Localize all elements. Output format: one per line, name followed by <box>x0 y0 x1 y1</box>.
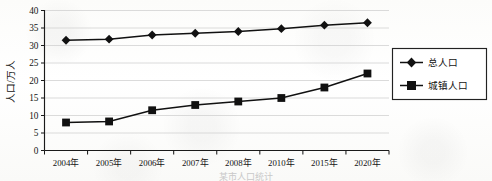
x-tick-label: 2008年 <box>225 157 252 168</box>
x-tick-label: 2005年 <box>96 157 123 168</box>
y-tick-label: 10 <box>29 111 39 121</box>
x-tick-label: 2004年 <box>53 157 80 168</box>
data-point-square <box>191 101 199 109</box>
x-tick-label: 2020年 <box>354 157 381 168</box>
caption-text: 某市人口统计 <box>0 172 492 181</box>
y-tick-label: 35 <box>29 23 39 33</box>
x-tick-label: 2010年 <box>268 157 295 168</box>
data-point-square <box>234 98 242 106</box>
data-point-square <box>364 70 372 78</box>
data-point-diamond <box>191 29 200 38</box>
gridlines <box>45 11 390 134</box>
y-tick-label: 25 <box>29 58 39 68</box>
data-point-square <box>277 94 285 102</box>
chart-canvas: 0510152025303540 2004年2005年2006年2007年200… <box>0 0 492 181</box>
y-tick-label: 0 <box>34 146 39 156</box>
legend-label-total-population: 总人口 <box>428 57 458 68</box>
y-tick-label: 30 <box>29 41 39 51</box>
x-tick-label: 2006年 <box>139 157 166 168</box>
y-axis-tick-labels: 0510152025303540 <box>29 6 39 156</box>
data-point-diamond <box>105 35 114 44</box>
data-point-diamond <box>62 36 71 45</box>
x-axis-tick-labels: 2004年2005年2006年2007年2008年2010年2015年2020年 <box>53 157 381 168</box>
x-tick-label: 2015年 <box>311 157 338 168</box>
data-point-square <box>148 106 156 114</box>
data-series-layer <box>62 18 372 126</box>
legend-label-urban-population: 城镇人口 <box>428 80 468 91</box>
data-point-square <box>105 118 113 126</box>
data-point-square <box>321 84 329 92</box>
data-point-diamond <box>148 31 157 40</box>
y-axis-title: 人口/万人 <box>5 60 16 103</box>
square-marker-icon <box>407 81 416 90</box>
data-point-diamond <box>234 27 243 36</box>
data-point-diamond <box>277 24 286 33</box>
cut-off-caption: 某市人口统计 <box>0 172 492 181</box>
data-point-square <box>62 119 70 127</box>
legend-entry-urban-population[interactable]: 城镇人口 <box>400 80 468 91</box>
x-tick-label: 2007年 <box>182 157 209 168</box>
y-tick-label: 20 <box>29 76 39 86</box>
y-tick-label: 15 <box>29 93 39 103</box>
y-tick-label: 5 <box>34 128 39 138</box>
data-point-diamond <box>363 18 372 27</box>
y-tick-label: 40 <box>29 6 39 16</box>
series-diamond <box>62 18 372 44</box>
line-chart: 0510152025303540 2004年2005年2006年2007年200… <box>0 0 492 181</box>
legend: 总人口 城镇人口 <box>393 49 487 100</box>
x-axis-ticks <box>45 151 390 155</box>
